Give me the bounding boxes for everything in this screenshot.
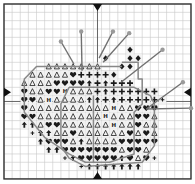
pin-head-icon	[127, 31, 131, 35]
pin-head-icon	[59, 39, 63, 43]
letter-h-icon: H	[111, 105, 116, 111]
top-center-marker-icon	[93, 4, 102, 11]
pin-shaft	[61, 41, 74, 63]
cross-stitch-chart: HHHHH	[0, 0, 195, 184]
letter-h-icon: H	[46, 97, 51, 103]
letter-h-icon: H	[103, 113, 108, 119]
pin-head-icon	[160, 48, 164, 52]
pin-head-icon	[79, 29, 83, 33]
pin-head-icon	[111, 29, 115, 33]
bottom-center-marker-icon	[93, 172, 102, 179]
letter-h-icon: H	[111, 122, 116, 128]
pin-head-icon	[189, 106, 193, 110]
pin-shaft	[81, 31, 82, 70]
pin-shaft	[146, 108, 191, 109]
pin-head-icon	[181, 80, 185, 84]
